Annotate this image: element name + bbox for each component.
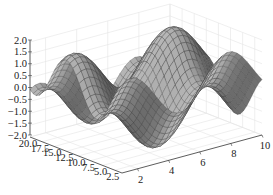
x-tick-label: 2 <box>138 174 143 185</box>
x-tick-label: 4 <box>169 165 175 176</box>
z-tick-label: 1.0 <box>14 58 27 69</box>
x-tick-label: 8 <box>231 148 236 159</box>
z-tick-label: −0.5 <box>8 94 27 105</box>
z-tick-label: 2.0 <box>14 35 27 46</box>
y-tick-label: 20.0 <box>19 138 37 149</box>
z-tick-label: −1.0 <box>8 106 27 117</box>
z-axis-tick-labels: −2.0−1.5−1.0−0.50.00.51.01.52.0 <box>8 35 27 141</box>
z-tick-label: 0.0 <box>14 82 27 93</box>
y-tick-label: 5.0 <box>94 166 107 177</box>
z-tick-label: 0.5 <box>14 70 27 81</box>
x-tick-label: 10 <box>260 140 271 151</box>
y-tick-label: 2.5 <box>106 171 119 182</box>
z-tick-label: 1.5 <box>14 46 27 57</box>
surface-plot-3d: −2.0−1.5−1.0−0.50.00.51.01.52.0 2.55.07.… <box>0 0 273 195</box>
z-tick-label: −1.5 <box>8 118 27 129</box>
x-tick-label: 6 <box>200 157 205 168</box>
